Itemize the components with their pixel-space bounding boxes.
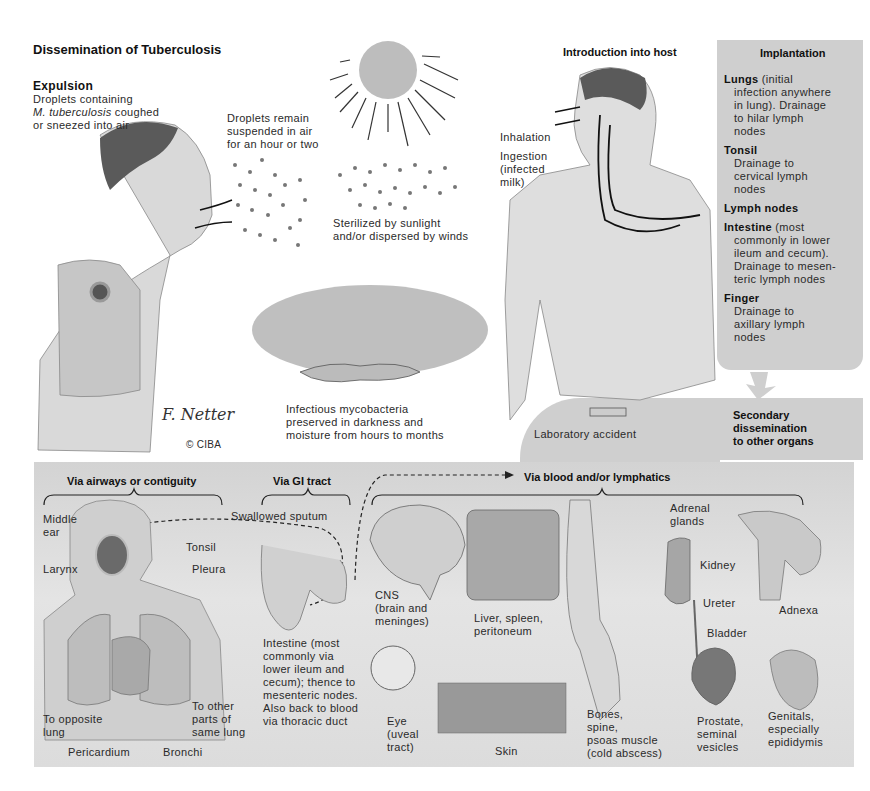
label-skin: Skin (495, 745, 518, 758)
route-gi-heading: Via GI tract (273, 475, 331, 487)
caption-line: Droplets remain (227, 112, 319, 125)
host-man-illustration (505, 68, 715, 421)
intestine-illustration (261, 545, 346, 630)
caption-line: Ingestion (500, 150, 547, 163)
implant-line: nodes (724, 183, 864, 196)
caption-line: via thoracic duct (263, 715, 358, 728)
implant-line: commonly in lower (724, 234, 864, 247)
caption-line: for an hour or two (227, 138, 319, 151)
gi-brace (262, 489, 350, 505)
caption-line: Intestine (most (263, 637, 358, 650)
label-liver: Liver, spleen, peritoneum (474, 612, 543, 638)
dark-moist-area (252, 285, 488, 375)
caption-line: lower ileum and (263, 663, 358, 676)
caption-line: moisture from hours to months (286, 429, 444, 442)
caption-line: Genitals, (768, 710, 823, 723)
expulsion-text: coughed (111, 106, 159, 118)
implant-name: Finger (724, 292, 759, 304)
implant-line: Drainage to (724, 157, 864, 170)
kidney-illustration (665, 538, 690, 604)
species-name: M. tuberculosis (33, 106, 111, 118)
caption-line: same lung (192, 726, 245, 739)
implant-line: teric lymph nodes (724, 273, 864, 286)
heading-line: dissemination (733, 422, 814, 435)
airways-brace (44, 489, 222, 505)
caption-line: lung (43, 726, 103, 739)
infectious-caption: Infectious mycobacteria preserved in dar… (286, 403, 444, 442)
caption-line: milk) (500, 176, 547, 189)
implant-line: axillary lymph (724, 318, 864, 331)
liver-illustration (467, 510, 559, 600)
label-opposite-lung: To opposite lung (43, 713, 103, 739)
sterilized-caption: Sterilized by sunlight and/or dispersed … (333, 217, 468, 243)
caption-line: ear (43, 526, 77, 539)
caption-line: peritoneum (474, 625, 543, 638)
caption-line: commonly via (263, 650, 358, 663)
label-gi-intestine: Intestine (most commonly via lower ileum… (263, 637, 358, 728)
label-adrenal: Adrenal glands (670, 502, 710, 528)
implant-name: Tonsil (724, 144, 757, 156)
implant-inline: (initial (759, 73, 794, 85)
implant-line: Drainage to (724, 305, 864, 318)
caption-line: (uveal (387, 728, 419, 741)
caption-line: psoas muscle (587, 734, 662, 747)
implant-line: ileum and cecum). (724, 247, 864, 260)
caption-line: suspended in air (227, 125, 319, 138)
route-blood-heading: Via blood and/or lymphatics (524, 471, 671, 483)
bladder-illustration (692, 648, 735, 705)
expulsion-line: Droplets containing (33, 93, 159, 106)
label-bronchi: Bronchi (163, 746, 202, 759)
caption-line: vesicles (697, 741, 744, 754)
caption-line: mesenteric nodes. (263, 689, 358, 702)
coughing-man-illustration (38, 122, 232, 452)
secondary-dissemination-heading: Secondary dissemination to other organs (733, 409, 814, 448)
implant-item-finger: Finger Drainage to axillary lymph nodes (724, 292, 864, 344)
implant-inline: (most (772, 221, 804, 233)
label-eye: Eye (uveal tract) (387, 715, 419, 754)
down-arrow-icon (746, 372, 776, 400)
skin-illustration (438, 683, 566, 733)
caption-line: Infectious mycobacteria (286, 403, 444, 416)
implant-name: Intestine (724, 221, 772, 233)
route-airways-heading: Via airways or contiguity (67, 475, 196, 487)
eye-illustration (371, 646, 415, 690)
genitals-illustration (770, 650, 818, 710)
implant-item-tonsil: Tonsil Drainage to cervical lymph nodes (724, 144, 864, 196)
sun-icon (330, 41, 458, 146)
label-middle-ear: Middle ear (43, 513, 77, 539)
inhalation-label: Inhalation (500, 131, 551, 144)
heading-line: Secondary (733, 409, 814, 422)
brain-illustration (370, 505, 465, 600)
label-swallowed-sputum: Swallowed sputum (231, 510, 328, 523)
implant-name: Lungs (724, 73, 759, 85)
implant-item-lymph-nodes: Lymph nodes (724, 202, 864, 215)
label-pleura: Pleura (192, 563, 226, 576)
label-ureter: Ureter (703, 597, 735, 610)
caption-line: cecum); thence to (263, 676, 358, 689)
caption-line: To opposite (43, 713, 103, 726)
label-genitals: Genitals, especially epididymis (768, 710, 823, 749)
introduction-heading: Introduction into host (563, 46, 677, 58)
caption-line: (cold abscess) (587, 747, 662, 760)
copyright: © CIBA (186, 438, 221, 451)
caption-line: preserved in darkness and (286, 416, 444, 429)
lab-accident-label: Laboratory accident (534, 428, 636, 441)
label-adnexa: Adnexa (779, 604, 818, 617)
caption-line: CNS (375, 589, 429, 602)
caption-line: tract) (387, 741, 419, 754)
uterus-illustration (738, 511, 821, 600)
expulsion-line: or sneezed into air (33, 119, 159, 132)
page-title: Dissemination of Tuberculosis (33, 42, 221, 57)
label-bones: Bones, spine, psoas muscle (cold abscess… (587, 708, 662, 760)
implant-line: infection anywhere (724, 86, 864, 99)
label-tonsil: Tonsil (186, 541, 216, 554)
artist-signature: F. Netter (162, 405, 234, 424)
caption-line: Bones, (587, 708, 662, 721)
caption-line: meninges) (375, 615, 429, 628)
caption-line: (infected (500, 163, 547, 176)
caption-line: spine, (587, 721, 662, 734)
label-cns: CNS (brain and meninges) (375, 589, 429, 628)
label-bladder: Bladder (707, 627, 747, 640)
caption-line: especially (768, 723, 823, 736)
implantation-heading: Implantation (760, 47, 825, 59)
